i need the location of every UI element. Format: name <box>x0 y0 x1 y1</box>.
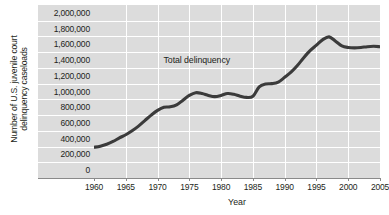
x-axis-tick-mark <box>126 178 127 181</box>
y-label-separator <box>38 68 94 69</box>
x-axis-tick-mark <box>285 178 286 181</box>
x-axis-tick-mark <box>189 178 190 181</box>
series-annotation-label: Total delinquency <box>164 55 230 65</box>
x-axis-tick-label: 1975 <box>180 183 198 192</box>
x-axis-tick-mark <box>158 178 159 181</box>
chart-figure: Number of U.S. juvenile court delinquenc… <box>0 0 389 215</box>
y-axis-tick-label: 400,000 <box>38 134 90 143</box>
y-label-separator <box>38 84 94 85</box>
y-axis-tick-labels: 0200,000400,000600,000800,0001,000,0001,… <box>38 5 94 178</box>
y-label-separator <box>38 147 94 148</box>
y-axis-title-line-1: Number of U.S. juvenile court <box>9 35 19 142</box>
y-axis-title-text: Number of U.S. juvenile court delinquenc… <box>9 35 30 142</box>
y-axis-tick-label: 1,600,000 <box>38 40 90 49</box>
x-axis-tick-label: 1960 <box>85 183 103 192</box>
x-axis-tick-label: 1980 <box>212 183 230 192</box>
y-axis-tick-label: 1,800,000 <box>38 24 90 33</box>
y-label-separator <box>38 115 94 116</box>
x-axis-tick-label: 1995 <box>307 183 325 192</box>
x-axis-tick-label: 2000 <box>339 183 357 192</box>
x-axis-line <box>38 178 380 179</box>
y-axis-title: Number of U.S. juvenile court delinquenc… <box>0 0 38 178</box>
x-axis-tick-label: 1985 <box>244 183 262 192</box>
y-label-separator <box>38 99 94 100</box>
x-axis-tick-label: 2005 <box>371 183 389 192</box>
x-axis-tick-mark <box>316 178 317 181</box>
y-axis-tick-label: 600,000 <box>38 118 90 127</box>
x-axis-tick-mark <box>94 178 95 181</box>
x-axis-tick-label: 1965 <box>117 183 135 192</box>
y-axis-tick-label: 800,000 <box>38 103 90 112</box>
y-axis-tick-label: 1,400,000 <box>38 56 90 65</box>
plot-area: Total delinquency <box>94 5 380 178</box>
y-axis-tick-label: 200,000 <box>38 150 90 159</box>
y-axis-title-line-2: delinquency caseloads <box>19 35 29 142</box>
y-label-separator <box>38 21 94 22</box>
y-axis-tick-label: 0 <box>38 166 90 175</box>
y-label-separator <box>38 36 94 37</box>
y-label-separator <box>38 131 94 132</box>
y-axis-tick-label: 2,000,000 <box>38 8 90 17</box>
x-axis-tick-mark <box>221 178 222 181</box>
x-axis-tick-label: 1970 <box>148 183 166 192</box>
y-axis-tick-label: 1,000,000 <box>38 87 90 96</box>
x-axis-tick-mark <box>253 178 254 181</box>
y-axis-tick-label: 1,200,000 <box>38 71 90 80</box>
series-total-delinquency <box>94 5 380 178</box>
x-axis-tick-mark <box>348 178 349 181</box>
x-axis-title: Year <box>94 197 380 207</box>
x-axis-tick-mark <box>380 178 381 181</box>
x-axis-tick-label: 1990 <box>276 183 294 192</box>
y-label-separator <box>38 162 94 163</box>
series-line-path <box>94 37 380 148</box>
y-label-separator <box>38 52 94 53</box>
